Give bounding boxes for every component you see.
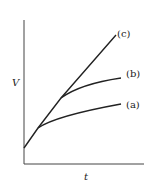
curve-label-b: (b)	[126, 68, 140, 79]
curve-a	[38, 104, 121, 128]
curve-label-a: (a)	[126, 99, 140, 110]
curve-label-c: (c)	[117, 28, 131, 39]
x-axis-label: t	[84, 171, 89, 182]
curve-c	[24, 35, 116, 148]
voltage-time-diagram: (c) (b) (a) V t	[0, 0, 150, 185]
y-axis-label: V	[12, 77, 21, 88]
